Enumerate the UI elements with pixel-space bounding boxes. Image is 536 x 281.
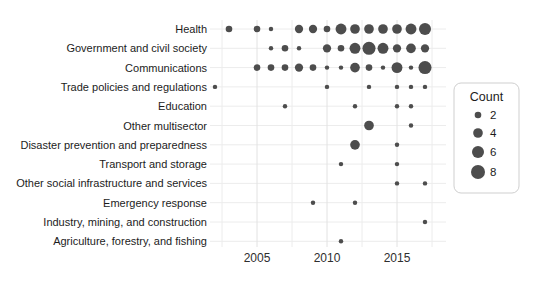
category-label: Government and civil society	[66, 41, 207, 55]
x-axis-tick-label: 2015	[375, 251, 419, 266]
category-label: Other social infrastructure and services	[16, 176, 207, 190]
chart-label-layer: Count HealthGovernment and civil society…	[0, 0, 536, 281]
legend-title: Count	[454, 90, 519, 105]
legend-size-label: 2	[490, 108, 496, 122]
category-label: Transport and storage	[99, 157, 207, 171]
x-axis-tick-label: 2005	[235, 251, 279, 266]
category-label: Education	[158, 99, 207, 113]
x-axis-tick-label: 2010	[305, 251, 349, 266]
bubble-chart-figure: Count HealthGovernment and civil society…	[0, 0, 536, 281]
category-label: Industry, mining, and construction	[43, 215, 207, 229]
category-label: Agriculture, forestry, and fishing	[53, 234, 207, 248]
legend-size-label: 6	[490, 145, 496, 159]
legend-size-label: 8	[490, 165, 496, 179]
legend-size-label: 4	[490, 126, 496, 140]
category-label: Emergency response	[103, 196, 207, 210]
category-label: Health	[175, 22, 207, 36]
category-label: Communications	[125, 61, 207, 75]
category-label: Disaster prevention and preparedness	[20, 138, 207, 152]
category-label: Other multisector	[123, 119, 207, 133]
category-label: Trade policies and regulations	[61, 80, 207, 94]
